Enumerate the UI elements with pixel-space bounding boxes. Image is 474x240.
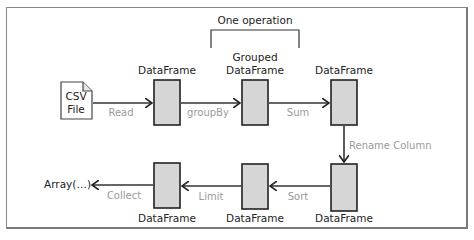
dataframe-node-6 <box>154 163 180 208</box>
operation-bracket <box>211 30 299 48</box>
bracket-label: One operation <box>217 14 292 26</box>
dataframe-node-3 <box>331 80 357 125</box>
node-2-label-line2: DataFrame <box>226 64 284 76</box>
node-6-label: DataFrame <box>138 212 196 224</box>
edge-read-label: Read <box>108 107 133 118</box>
edge-sort-label: Sort <box>288 191 309 202</box>
edge-limit-label: Limit <box>199 191 224 202</box>
node-1-label: DataFrame <box>138 64 196 76</box>
dataframe-node-5 <box>242 164 268 209</box>
edge-collect-label: Collect <box>107 190 141 201</box>
dataframe-node-4 <box>331 164 357 211</box>
source-label-line1: CSV <box>65 90 87 102</box>
dataframe-node-1 <box>154 80 180 125</box>
output-label: Array(…) <box>44 178 91 190</box>
edge-groupby-label: groupBy <box>187 107 229 118</box>
edge-rename-label: Rename Column <box>349 140 432 151</box>
edge-sum-label: Sum <box>287 107 309 118</box>
grouped-dataframe-node <box>242 80 268 125</box>
node-3-label: DataFrame <box>315 64 373 76</box>
source-label-line2: File <box>67 103 85 115</box>
pipeline-diagram: One operation CSV File DataFrame Grouped… <box>0 0 474 240</box>
node-5-label: DataFrame <box>226 212 284 224</box>
node-4-label: DataFrame <box>315 212 373 224</box>
node-2-label-line1: Grouped <box>232 51 277 63</box>
